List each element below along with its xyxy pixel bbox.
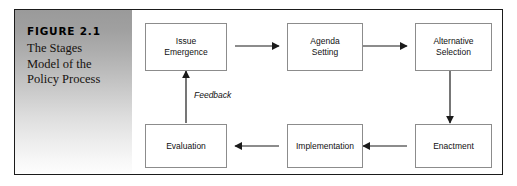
node-alternative-selection-line1: Alternative — [433, 36, 473, 47]
figure-number-label: FIGURE 2.1 — [27, 24, 127, 39]
caption-line-3: Policy Process — [27, 72, 127, 88]
figure-root: FIGURE 2.1 The Stages Model of the Polic… — [0, 0, 517, 186]
node-enactment[interactable]: Enactment — [415, 124, 492, 168]
node-agenda-setting-line1: Agenda — [310, 36, 339, 47]
caption-text-block: FIGURE 2.1 The Stages Model of the Polic… — [27, 24, 127, 88]
caption-line-2: Model of the — [27, 57, 127, 73]
node-implementation[interactable]: Implementation — [287, 124, 363, 168]
flowchart: Issue Emergence Agenda Setting Alternati… — [132, 10, 502, 174]
node-issue-emergence[interactable]: Issue Emergence — [145, 23, 227, 71]
figure-frame: FIGURE 2.1 The Stages Model of the Polic… — [14, 9, 503, 175]
node-issue-emergence-line1: Issue — [164, 36, 207, 47]
node-issue-emergence-line2: Emergence — [164, 47, 207, 58]
caption-panel: FIGURE 2.1 The Stages Model of the Polic… — [15, 10, 132, 173]
figure-title-text: The Stages Model of the Policy Process — [27, 41, 127, 88]
node-enactment-label: Enactment — [433, 141, 474, 152]
feedback-annotation-label: Feedback — [194, 90, 231, 100]
node-implementation-label: Implementation — [296, 141, 354, 152]
node-alternative-selection[interactable]: Alternative Selection — [415, 23, 492, 71]
node-agenda-setting-line2: Setting — [310, 47, 339, 58]
node-evaluation[interactable]: Evaluation — [145, 124, 227, 168]
caption-line-1: The Stages — [27, 41, 127, 57]
node-agenda-setting[interactable]: Agenda Setting — [287, 23, 363, 71]
node-alternative-selection-line2: Selection — [433, 47, 473, 58]
node-evaluation-label: Evaluation — [166, 141, 206, 152]
